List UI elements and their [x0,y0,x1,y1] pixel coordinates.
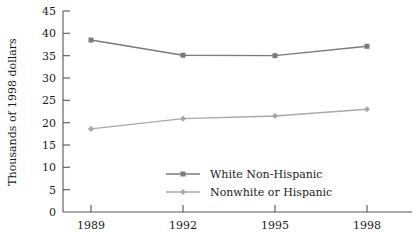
y-tick-label-0: 0 [49,206,56,219]
legend-label: Nonwhite or Hispanic [210,186,332,199]
legend-swatch-marker [181,172,186,177]
chart-canvas: Thousands of 1998 dollars 45 40 35 30 25… [0,0,417,246]
data-point-1995 [272,113,278,119]
series-line [91,109,367,129]
series-nonwhite-or-hispanic [88,106,370,132]
data-point-1998 [365,44,370,49]
y-tick-label-40: 40 [42,27,56,40]
series-line [91,40,367,56]
x-axis-ticks [91,205,367,212]
line-chart: Thousands of 1998 dollars 45 40 35 30 25… [0,0,417,246]
data-series-layer [88,38,370,132]
y-tick-label-20: 20 [42,117,56,130]
legend-item-white-non-hispanic[interactable]: White Non-Hispanic [166,168,323,181]
data-point-1995 [273,53,278,58]
y-axis-tick-labels: 45 40 35 30 25 20 15 10 5 0 [42,5,56,219]
y-tick-label-15: 15 [42,139,56,152]
x-axis-tick-labels: 1989 1992 1995 1998 [77,219,381,232]
y-axis-ticks [63,11,70,190]
legend-item-nonwhite-or-hispanic[interactable]: Nonwhite or Hispanic [166,186,332,199]
legend-swatch-marker [180,189,186,195]
x-tick-label-1995: 1995 [261,219,289,232]
data-point-1989 [88,126,94,132]
data-point-1992 [180,116,186,122]
series-white-non-hispanic [89,38,370,59]
data-point-1998 [364,106,370,112]
y-tick-label-45: 45 [42,5,56,18]
x-tick-label-1992: 1992 [169,219,197,232]
data-point-1989 [89,38,94,43]
x-tick-label-1998: 1998 [353,219,381,232]
legend-label: White Non-Hispanic [210,168,323,181]
data-point-1992 [181,53,186,58]
y-tick-label-35: 35 [42,50,56,63]
y-axis-title: Thousands of 1998 dollars [6,38,19,186]
x-tick-label-1989: 1989 [77,219,105,232]
y-tick-label-30: 30 [42,72,56,85]
y-tick-label-5: 5 [49,184,56,197]
y-tick-label-25: 25 [42,94,56,107]
chart-legend: White Non-HispanicNonwhite or Hispanic [166,168,332,199]
y-tick-label-10: 10 [42,161,56,174]
